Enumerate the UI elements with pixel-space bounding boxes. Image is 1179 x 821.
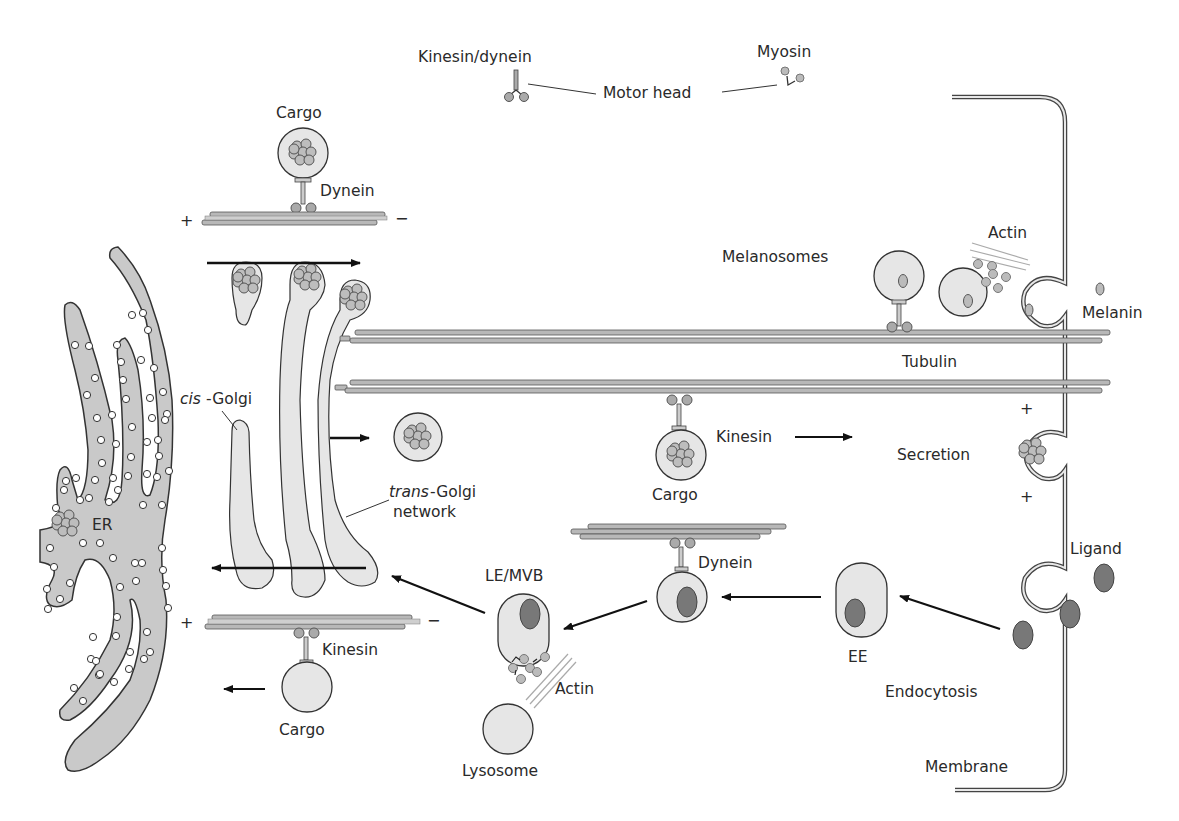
microtubules [335, 330, 1110, 393]
tubulin-label: Tubulin [901, 353, 957, 371]
mid-cargo-label: Cargo [652, 486, 698, 504]
kinesin-dynein-motor-icon [505, 70, 529, 102]
trans-golgi-label: -Golgi [430, 483, 476, 501]
cis-golgi-prefix: cis [180, 390, 201, 408]
endocytosis-arrow [900, 596, 1000, 629]
membrane-plus-2: + [1020, 487, 1033, 506]
melanosomes-label: Melanosomes [722, 248, 828, 266]
bottom-plus-end: + [180, 613, 193, 632]
top-dynein-transport: Cargo Dynein + − [180, 104, 408, 230]
actin-top-label: Actin [988, 224, 1027, 242]
actin-bottom-label: Actin [555, 680, 594, 698]
cis-golgi-label: -Golgi [206, 390, 252, 408]
trafficking-diagram: Kinesin/dynein Motor head Myosin Membran… [0, 0, 1179, 821]
bottom-kinesin-label: Kinesin [322, 641, 378, 659]
top-dynein-label: Dynein [320, 182, 375, 200]
bottom-kinesin-transport: + − Kinesin Cargo [180, 611, 440, 739]
myosin-label: Myosin [757, 43, 811, 61]
bottom-minus-end: − [427, 611, 440, 630]
myosin-motor-icon [781, 67, 804, 85]
membrane-plus-1: + [1020, 399, 1033, 418]
endocytic-pathway: Dynein EE Ligand Endocytosis LE/MVB Acti… [392, 524, 1122, 780]
endoplasmic-reticulum: ER [40, 247, 173, 771]
melanin-label: Melanin [1082, 304, 1143, 322]
ligand-label: Ligand [1070, 540, 1122, 558]
endocytosis-label: Endocytosis [885, 683, 978, 701]
le-to-mvb-arrow [564, 601, 647, 629]
er-label: ER [92, 516, 113, 534]
melanosome-transport: Melanosomes [722, 243, 1104, 332]
top-minus-end: − [395, 209, 408, 228]
trans-golgi-network-label: network [393, 503, 456, 521]
motor-head-label: Motor head [603, 84, 691, 102]
kinesin-dynein-label: Kinesin/dynein [418, 48, 532, 66]
le-mvb-label: LE/MVB [485, 567, 543, 585]
motor-legend: Kinesin/dynein Motor head Myosin [418, 43, 811, 102]
lysosome-label: Lysosome [462, 762, 538, 780]
bottom-cargo-label: Cargo [279, 721, 325, 739]
mid-kinesin-transport: Kinesin Cargo [652, 395, 852, 504]
mvb-to-golgi-arrow [392, 576, 485, 613]
trans-golgi-prefix: trans [389, 483, 429, 501]
membrane-label: Membrane [925, 758, 1008, 776]
mid-dynein-label: Dynein [698, 554, 753, 572]
top-plus-end: + [180, 211, 193, 230]
lysosome [483, 704, 533, 754]
golgi-apparatus [230, 262, 378, 597]
secretion-label: Secretion [897, 446, 970, 464]
mid-kinesin-label: Kinesin [716, 428, 772, 446]
ee-label: EE [848, 648, 868, 666]
top-cargo-label: Cargo [276, 104, 322, 122]
